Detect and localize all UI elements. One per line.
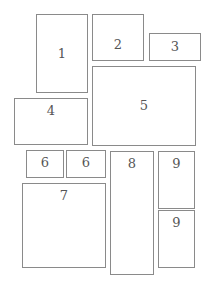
block-9-top: 9 — [158, 151, 195, 209]
block-6-right-label: 6 — [67, 156, 105, 170]
block-2-label: 2 — [93, 38, 143, 52]
block-7-label: 7 — [23, 189, 105, 203]
block-6-left: 6 — [26, 150, 64, 178]
block-5-label: 5 — [93, 99, 195, 113]
block-9-bottom: 9 — [158, 210, 195, 268]
block-1-label: 1 — [37, 47, 87, 61]
block-9-bottom-label: 9 — [159, 216, 194, 230]
block-6-left-label: 6 — [27, 156, 63, 170]
block-3-label: 3 — [150, 40, 200, 54]
block-6-right: 6 — [66, 150, 106, 178]
block-9-top-label: 9 — [159, 157, 194, 171]
block-5: 5 — [92, 66, 196, 146]
block-4-label: 4 — [15, 104, 87, 118]
block-3: 3 — [149, 33, 201, 61]
block-7: 7 — [22, 183, 106, 268]
block-8: 8 — [110, 151, 154, 275]
block-1: 1 — [36, 14, 88, 93]
block-8-label: 8 — [111, 157, 153, 171]
block-2: 2 — [92, 14, 144, 61]
block-4: 4 — [14, 98, 88, 145]
